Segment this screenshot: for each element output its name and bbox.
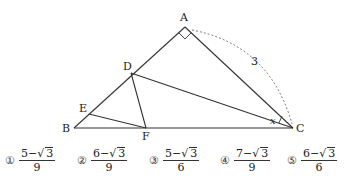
denominator: 6 bbox=[316, 161, 323, 174]
denominator: 9 bbox=[106, 161, 113, 174]
answer-choices: ① 5−√3 9 ② 6−√3 9 ③ 5−√3 6 ④ 7−√3 9 ⑤ 6−… bbox=[0, 147, 357, 181]
choice-marker: ④ bbox=[220, 154, 230, 167]
segment-ef bbox=[89, 114, 146, 128]
denominator: 9 bbox=[249, 161, 256, 174]
choice-5[interactable]: ⑤ 6−√3 6 bbox=[287, 147, 337, 174]
choice-1[interactable]: ① 5−√3 9 bbox=[5, 147, 55, 174]
choice-marker: ⑤ bbox=[287, 154, 297, 167]
point-label-f: F bbox=[142, 131, 150, 142]
fraction: 6−√3 9 bbox=[91, 147, 127, 174]
radicand: 3 bbox=[189, 147, 197, 159]
radicand: 3 bbox=[45, 147, 53, 159]
denominator: 9 bbox=[34, 161, 41, 174]
numerator: 5− bbox=[165, 147, 181, 160]
geometry-figure: A B C D E F 3 x bbox=[0, 0, 357, 140]
numerator: 6− bbox=[303, 147, 319, 160]
choice-4[interactable]: ④ 7−√3 9 bbox=[220, 147, 270, 174]
fraction: 5−√3 6 bbox=[163, 147, 199, 174]
length-arc bbox=[192, 30, 292, 124]
length-label: 3 bbox=[251, 56, 258, 67]
point-label-c: C bbox=[296, 123, 304, 134]
triangle-diagram bbox=[0, 0, 357, 140]
point-label-e: E bbox=[79, 103, 87, 114]
angle-label: x bbox=[270, 115, 276, 126]
point-label-d: D bbox=[123, 61, 132, 72]
choice-marker: ③ bbox=[149, 154, 159, 167]
side-ab bbox=[74, 27, 185, 128]
point-label-b: B bbox=[62, 123, 70, 134]
choice-2[interactable]: ② 6−√3 9 bbox=[77, 147, 127, 174]
fraction: 6−√3 6 bbox=[301, 147, 337, 174]
choice-marker: ② bbox=[77, 154, 87, 167]
point-label-a: A bbox=[180, 12, 188, 23]
numerator: 6− bbox=[93, 147, 109, 160]
choice-3[interactable]: ③ 5−√3 6 bbox=[149, 147, 199, 174]
denominator: 6 bbox=[178, 161, 185, 174]
side-ac bbox=[185, 27, 293, 128]
choice-marker: ① bbox=[5, 154, 15, 167]
radicand: 3 bbox=[327, 147, 335, 159]
segment-df bbox=[131, 73, 146, 128]
fraction: 7−√3 9 bbox=[234, 147, 270, 174]
numerator: 7− bbox=[236, 147, 252, 160]
radicand: 3 bbox=[260, 147, 268, 159]
radicand: 3 bbox=[117, 147, 125, 159]
segment-dc bbox=[131, 73, 293, 128]
fraction: 5−√3 9 bbox=[19, 147, 55, 174]
right-angle-icon bbox=[179, 33, 191, 39]
numerator: 5− bbox=[21, 147, 37, 160]
